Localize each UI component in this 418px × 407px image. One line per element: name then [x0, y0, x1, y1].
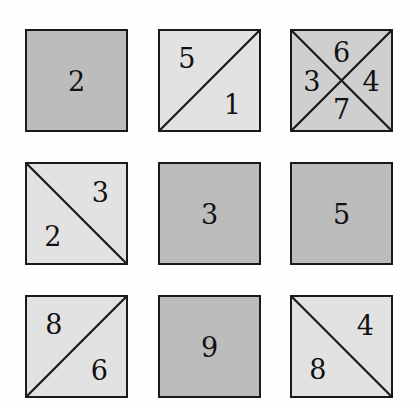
cell-number: 2 [68, 67, 85, 94]
cell-number: 5 [178, 44, 195, 71]
cell-number: 3 [92, 178, 109, 205]
cell-number: 6 [91, 357, 108, 384]
cell-number: 7 [333, 96, 350, 123]
cell-number: 4 [357, 311, 374, 338]
cell-number: 4 [363, 67, 380, 94]
cell-number: 9 [201, 333, 218, 360]
split-line-anti-diagonal [160, 31, 259, 130]
grid-cell: 5 [290, 162, 393, 265]
split-line-main-diagonal [292, 297, 391, 396]
grid-cell: 6347 [290, 29, 393, 132]
cell-number: 3 [303, 67, 320, 94]
grid-cell: 86 [25, 295, 128, 398]
cell-number: 8 [45, 310, 62, 337]
square-partition-grid: 2516347323586948 [0, 0, 418, 407]
cell-number: 3 [201, 200, 218, 227]
split-line-main-diagonal [27, 164, 126, 263]
grid-cell: 3 [158, 162, 261, 265]
grid-cell: 2 [25, 29, 128, 132]
cell-number: 1 [224, 91, 241, 118]
grid-cell: 9 [158, 295, 261, 398]
cell-number: 2 [44, 223, 61, 250]
grid-cell: 48 [290, 295, 393, 398]
split-line-anti-diagonal [27, 297, 126, 396]
grid-cell: 51 [158, 29, 261, 132]
grid-cell: 32 [25, 162, 128, 265]
cell-number: 6 [333, 38, 350, 65]
cell-number: 8 [309, 356, 326, 383]
cell-number: 5 [333, 200, 350, 227]
